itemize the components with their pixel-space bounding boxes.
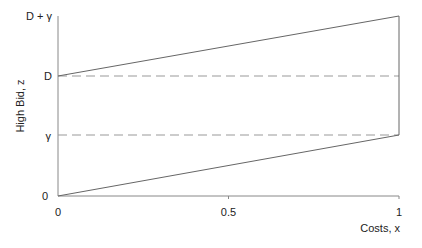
y-tick-label: D + γ	[26, 10, 52, 22]
chart: D + γ D γ 0 0 0.5 1 Costs, x High Bid, z	[0, 0, 422, 248]
y-tick-label: γ	[46, 130, 52, 142]
x-tick-label: 0.5	[221, 206, 236, 218]
lower-bound-line	[58, 135, 399, 196]
y-tick-label: D	[44, 70, 52, 82]
upper-bound-line	[58, 16, 399, 76]
y-tick-label: 0	[42, 190, 48, 202]
x-tick-label: 1	[396, 206, 402, 218]
y-axis-label: High Bid, z	[14, 79, 26, 132]
x-axis-label: Costs, x	[360, 222, 400, 234]
x-tick-label: 0	[55, 206, 61, 218]
